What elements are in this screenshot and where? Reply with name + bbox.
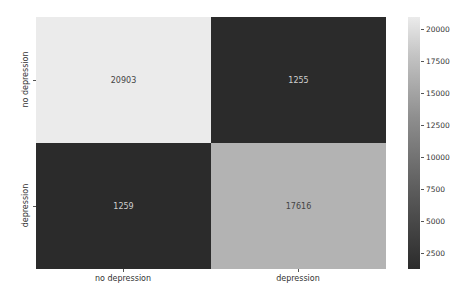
confusion-matrix-heatmap: 20903 1255 1259 17616 xyxy=(36,17,386,269)
colorbar-label-20000: 20000 xyxy=(426,25,450,34)
colorbar-label-17500: 17500 xyxy=(426,57,450,66)
colorbar-label-2500: 2500 xyxy=(426,249,445,258)
y-tick-label-depression: depression xyxy=(21,146,30,266)
cell-no-depression-no-depression: 20903 xyxy=(36,17,211,143)
colorbar-tick xyxy=(421,157,424,158)
cell-value: 17616 xyxy=(286,202,311,211)
colorbar-label-7500: 7500 xyxy=(426,185,445,194)
cell-depression-no-depression: 1259 xyxy=(36,143,211,269)
colorbar-label-10000: 10000 xyxy=(426,153,450,162)
x-tick-label-depression: depression xyxy=(238,274,358,283)
colorbar-tick xyxy=(421,253,424,254)
colorbar-tick xyxy=(421,61,424,62)
colorbar-label-15000: 15000 xyxy=(426,89,450,98)
x-tick-mark xyxy=(123,269,124,272)
y-tick-label-no-depression: no depression xyxy=(21,20,30,140)
y-tick-mark xyxy=(33,80,36,81)
colorbar-tick xyxy=(421,189,424,190)
cell-depression-depression: 17616 xyxy=(211,143,386,269)
colorbar xyxy=(408,17,420,269)
cell-no-depression-depression: 1255 xyxy=(211,17,386,143)
y-tick-mark xyxy=(33,206,36,207)
cell-value: 1255 xyxy=(288,76,308,85)
cell-value: 20903 xyxy=(111,76,136,85)
colorbar-tick xyxy=(421,29,424,30)
x-tick-mark xyxy=(298,269,299,272)
colorbar-tick xyxy=(421,93,424,94)
colorbar-tick xyxy=(421,125,424,126)
colorbar-label-5000: 5000 xyxy=(426,217,445,226)
cell-value: 1259 xyxy=(113,202,133,211)
colorbar-label-12500: 12500 xyxy=(426,121,450,130)
colorbar-tick xyxy=(421,221,424,222)
x-tick-label-no-depression: no depression xyxy=(63,274,183,283)
